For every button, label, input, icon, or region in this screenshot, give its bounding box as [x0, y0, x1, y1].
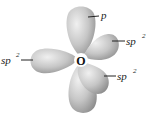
label-p-text: p [100, 9, 107, 21]
label-sp2-upper-right-base: sp [126, 35, 136, 47]
label-sp2-upper-right-sup: 2 [142, 32, 146, 40]
label-sp2-lower-right-sup: 2 [133, 67, 137, 75]
label-sp2-lower-right-base: sp [117, 70, 127, 82]
sp2-orbital-left [31, 48, 80, 73]
label-sp2-left: sp 2 [1, 51, 33, 66]
atom-symbol: O [76, 54, 85, 68]
label-sp2-left-base: sp [1, 54, 11, 66]
label-sp2-lower-right: sp 2 [104, 67, 137, 82]
orbital-diagram: O p sp 2 sp 2 sp 2 [0, 0, 149, 119]
label-sp2-left-sup: 2 [16, 51, 20, 59]
